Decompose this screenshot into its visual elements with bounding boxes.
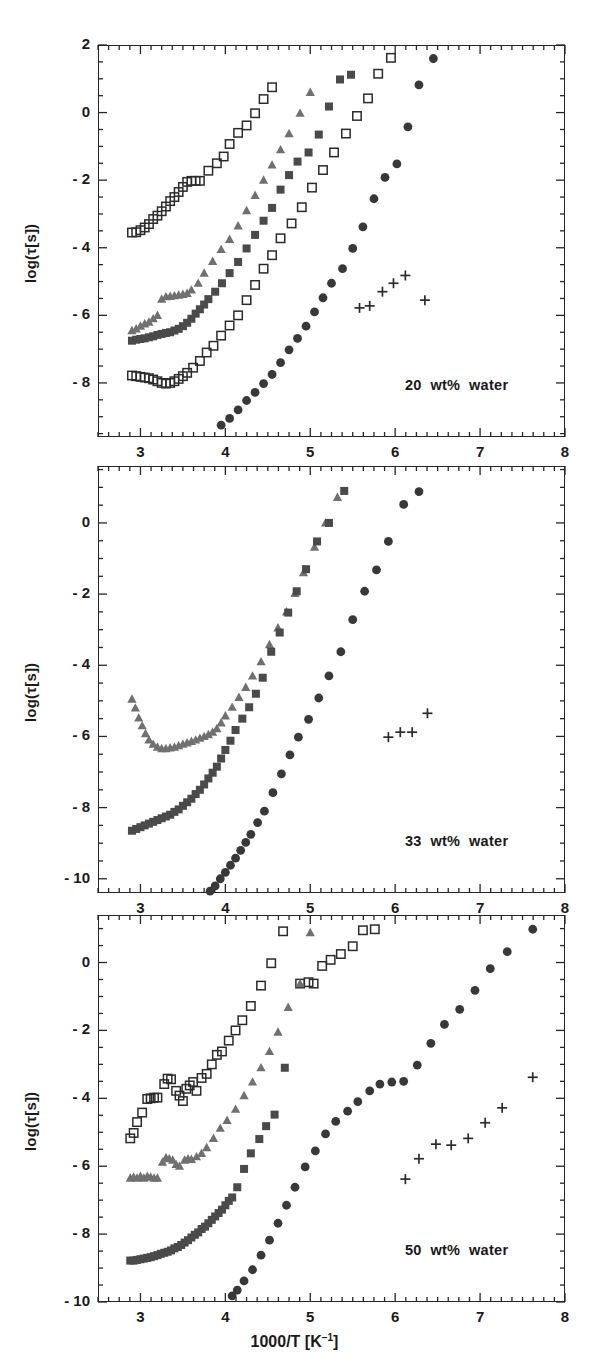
x-tick-label: 5	[295, 1308, 325, 1325]
data-point	[359, 926, 367, 934]
data-point	[306, 928, 315, 936]
data-point	[233, 1286, 242, 1295]
data-point	[228, 1193, 236, 1201]
data-point	[471, 986, 480, 995]
data-point	[497, 1103, 507, 1113]
data-point	[248, 1077, 257, 1085]
data-point	[216, 1123, 225, 1131]
x-tick-label: 3	[125, 1308, 155, 1325]
data-point	[503, 947, 512, 956]
data-point	[279, 927, 287, 935]
data-point	[318, 962, 326, 970]
y-tick-label: - 10	[44, 1292, 90, 1309]
data-point	[247, 1002, 255, 1010]
data-point	[528, 1072, 538, 1082]
data-point	[337, 950, 345, 958]
y-axis-title: log(τ[s])	[22, 1091, 39, 1150]
data-point	[399, 1077, 408, 1086]
data-point	[440, 1020, 449, 1029]
data-point	[282, 1201, 291, 1210]
data-point	[281, 1064, 289, 1072]
data-point	[138, 1108, 146, 1116]
data-point	[262, 1122, 270, 1130]
data-point	[375, 1080, 384, 1089]
panel-annotation: 50 wt% water	[405, 1242, 508, 1258]
data-point	[256, 1063, 265, 1071]
data-point	[326, 956, 334, 964]
data-point	[271, 1111, 279, 1119]
data-point	[365, 1086, 374, 1095]
data-point	[133, 1118, 141, 1126]
data-point	[273, 1027, 282, 1035]
data-point	[240, 1165, 248, 1173]
x-tick-label: 4	[210, 1308, 240, 1325]
data-point	[301, 1162, 310, 1171]
x-tick-label: 6	[380, 1308, 410, 1325]
data-point	[257, 981, 265, 989]
y-tick-label: 0	[44, 953, 90, 970]
series-open-square	[126, 925, 379, 1143]
data-point	[343, 1107, 352, 1116]
data-point	[387, 1078, 396, 1087]
x-tick-label: 7	[465, 1308, 495, 1325]
y-tick-label: - 2	[44, 1020, 90, 1037]
data-point	[446, 1140, 456, 1150]
data-point	[400, 1174, 410, 1184]
data-point	[208, 1060, 216, 1068]
data-point	[248, 1265, 257, 1274]
data-point	[321, 1130, 330, 1139]
data-point	[239, 1091, 248, 1099]
data-point	[284, 1003, 293, 1011]
y-tick-label: - 8	[44, 1224, 90, 1241]
data-point	[463, 1133, 473, 1143]
data-point	[274, 1219, 283, 1228]
data-point	[247, 1149, 255, 1157]
data-point	[486, 964, 495, 973]
data-point	[353, 1097, 362, 1106]
data-point	[311, 1147, 320, 1156]
figure-root: 20- 2- 4- 6- 8345678log(τ[s])20 wt% wate…	[0, 0, 589, 1372]
data-point	[213, 1051, 221, 1059]
data-point	[126, 1134, 134, 1142]
data-point	[265, 1047, 274, 1055]
series-filled-triangle	[126, 928, 315, 1182]
data-point	[233, 1183, 241, 1191]
series-plus	[400, 1072, 537, 1184]
x-axis-title: 1000/T [K−1]	[0, 1332, 589, 1351]
y-tick-label: - 6	[44, 1156, 90, 1173]
data-point	[231, 1026, 239, 1034]
data-point	[218, 1047, 226, 1055]
data-point	[431, 1139, 441, 1149]
data-point	[240, 1277, 249, 1286]
data-point	[267, 959, 275, 967]
data-point	[222, 1116, 231, 1124]
data-point	[179, 1097, 187, 1105]
data-point	[129, 1129, 137, 1137]
data-point	[528, 925, 537, 934]
data-point	[231, 1104, 240, 1112]
y-tick-label: - 4	[44, 1088, 90, 1105]
data-point	[225, 1036, 233, 1044]
data-point	[265, 1236, 274, 1245]
data-point	[257, 1251, 266, 1260]
data-point	[413, 1061, 422, 1070]
data-point	[291, 1183, 300, 1192]
data-point	[209, 1134, 218, 1142]
data-point	[371, 925, 379, 933]
data-point	[455, 1005, 464, 1014]
data-point	[349, 942, 357, 950]
data-point	[426, 1039, 435, 1048]
data-point	[238, 1016, 246, 1024]
data-point	[331, 1117, 340, 1126]
data-point	[255, 1135, 263, 1143]
data-point	[480, 1118, 490, 1128]
x-tick-label: 8	[550, 1308, 580, 1325]
data-point	[414, 1154, 424, 1164]
data-point	[202, 1143, 211, 1151]
